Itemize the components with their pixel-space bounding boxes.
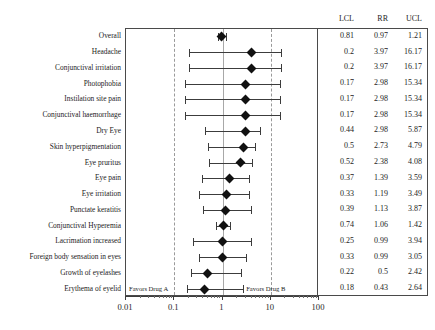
table-cell-ucl: 4.08 <box>388 157 422 167</box>
table-cell-ucl: 3.59 <box>388 173 422 183</box>
ci-cap-lower <box>205 127 206 135</box>
row-label: Lacrimation increased <box>55 236 121 245</box>
x-axis-minor-tick <box>284 296 285 298</box>
risk-ratio-marker <box>219 221 229 231</box>
table-cell-lcl: 0.44 <box>320 125 354 135</box>
ci-cap-upper <box>251 238 252 246</box>
table-cell-lcl: 0.33 <box>320 252 354 262</box>
table-cell-rr: 2.38 <box>354 157 388 167</box>
x-axis-minor-tick <box>166 296 167 298</box>
table-cell-ucl: 4.79 <box>388 141 422 151</box>
risk-ratio-marker <box>240 79 250 89</box>
risk-ratio-marker <box>246 48 256 58</box>
table-cell-rr: 0.99 <box>354 252 388 262</box>
table-cell-ucl: 16.17 <box>388 62 422 72</box>
confidence-interval-bar <box>185 115 279 116</box>
statistics-table: LCLRRUCL0.810.971.210.23.9716.170.23.971… <box>318 8 428 296</box>
x-axis-tick <box>222 296 223 300</box>
table-cell-rr: 2.73 <box>354 141 388 151</box>
ci-cap-upper <box>251 206 252 214</box>
table-cell-lcl: 0.17 <box>320 78 354 88</box>
table-cell-rr: 0.5 <box>354 267 388 277</box>
confidence-interval-row <box>126 252 317 264</box>
table-cell-rr: 3.97 <box>354 62 388 72</box>
ci-cap-lower <box>189 64 190 72</box>
ci-cap-upper <box>241 269 242 277</box>
table-cell-ucl: 5.87 <box>388 125 422 135</box>
ci-cap-upper <box>255 143 256 151</box>
forest-plot-figure: OverallHeadacheConjunctival irritationPh… <box>0 0 435 330</box>
x-axis-tick-label: 10 <box>265 302 274 312</box>
x-axis-minor-tick <box>299 296 300 298</box>
table-header-rr: RR <box>354 14 388 24</box>
ci-cap-lower <box>208 143 209 151</box>
table-cell-ucl: 3.49 <box>388 189 422 199</box>
risk-ratio-marker <box>240 126 250 136</box>
x-axis-minor-tick <box>262 296 263 298</box>
x-axis-minor-tick <box>148 296 149 298</box>
table-cell-rr: 3.97 <box>354 47 388 57</box>
ci-cap-lower <box>216 222 217 230</box>
confidence-interval-row <box>126 110 317 122</box>
x-axis-minor-tick <box>214 296 215 298</box>
favors-left-annotation: Favors Drug A <box>129 285 168 293</box>
risk-ratio-marker <box>239 142 249 152</box>
table-cell-ucl: 3.87 <box>388 204 422 214</box>
risk-ratio-marker <box>240 111 250 121</box>
ci-cap-lower <box>199 191 200 199</box>
x-axis: 0.010.1110100 <box>125 296 318 326</box>
confidence-interval-row <box>126 267 317 279</box>
confidence-interval-bar <box>205 131 259 132</box>
table-cell-ucl: 2.64 <box>388 283 422 293</box>
x-axis-minor-tick <box>140 296 141 298</box>
x-axis-minor-tick <box>188 296 189 298</box>
table-cell-ucl: 15.34 <box>388 94 422 104</box>
ci-cap-upper <box>280 112 281 120</box>
ci-cap-lower <box>185 112 186 120</box>
ci-cap-lower <box>191 269 192 277</box>
x-axis-minor-tick <box>307 296 308 298</box>
row-label: Conjunctival Hyperemia <box>48 221 121 230</box>
ci-cap-upper <box>249 175 250 183</box>
x-axis-minor-tick <box>159 296 160 298</box>
confidence-interval-row <box>126 220 317 232</box>
risk-ratio-marker <box>217 253 227 263</box>
table-cell-rr: 2.98 <box>354 110 388 120</box>
table-cell-lcl: 0.25 <box>320 236 354 246</box>
ci-cap-upper <box>246 254 247 262</box>
confidence-interval-row <box>126 141 317 153</box>
x-axis-minor-tick <box>313 296 314 298</box>
table-cell-lcl: 0.39 <box>320 204 354 214</box>
x-axis-minor-tick <box>236 296 237 298</box>
table-cell-rr: 0.97 <box>354 31 388 41</box>
ci-cap-upper <box>243 285 244 293</box>
x-axis-minor-tick <box>311 296 312 298</box>
ci-cap-upper <box>281 49 282 57</box>
table-cell-ucl: 3.94 <box>388 236 422 246</box>
confidence-interval-bar <box>189 52 281 53</box>
confidence-interval-row <box>126 62 317 74</box>
x-axis-tick-label: 1 <box>219 302 223 312</box>
x-axis-minor-tick <box>154 296 155 298</box>
table-cell-lcl: 0.17 <box>320 94 354 104</box>
table-cell-lcl: 0.52 <box>320 157 354 167</box>
row-label: Conjunctival haemorrhage <box>42 110 121 119</box>
risk-ratio-marker <box>220 205 230 215</box>
x-axis-minor-tick <box>169 296 170 298</box>
confidence-interval-row <box>126 173 317 185</box>
x-axis-minor-tick <box>265 296 266 298</box>
table-cell-rr: 1.39 <box>354 173 388 183</box>
confidence-interval-row <box>126 31 317 43</box>
confidence-interval-bar <box>185 84 279 85</box>
row-label: Instilation site pain <box>64 94 121 103</box>
ci-cap-lower <box>202 175 203 183</box>
table-cell-lcl: 0.33 <box>320 189 354 199</box>
x-axis-tick-label: 100 <box>312 302 325 312</box>
table-cell-rr: 0.99 <box>354 236 388 246</box>
x-axis-minor-tick <box>219 296 220 298</box>
x-axis-minor-tick <box>217 296 218 298</box>
risk-ratio-marker <box>240 95 250 105</box>
ci-cap-upper <box>260 127 261 135</box>
risk-ratio-marker <box>203 268 213 278</box>
x-axis-tick <box>125 296 126 300</box>
